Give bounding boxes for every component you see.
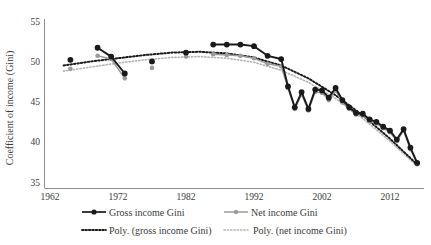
gross-income-data-point [278,56,284,62]
x-tick-label: 1972 [109,192,128,202]
gross-income-data-point [340,97,346,103]
gross-income-line-segment [213,45,417,163]
gross-income-data-point [346,104,352,110]
gross-income-data-point [367,117,373,123]
net-income-data-point [265,62,270,67]
net-income-data-point [238,54,243,59]
gross-income-data-point [122,71,128,77]
gross-income-data-point [285,84,291,90]
gross-income-data-point [326,95,332,101]
chart-canvas: Coefficient of income (Gini) 55 50 45 40… [0,0,431,245]
y-axis-tick-labels: 55 50 45 40 35 [31,17,41,188]
gross-income-data-point [401,126,407,132]
gross-income-data-point [251,43,257,49]
gross-income-data-point [374,119,380,125]
gross-income-data-point [394,137,400,143]
net-income-data-point [150,66,155,71]
chart-legend: Gross income Gini Net income Gini Poly. … [82,207,347,237]
y-tick-label: 40 [31,137,41,147]
y-axis-title: Coefficient of income (Gini) [4,51,16,166]
gross-income-data-point [265,53,271,59]
gross-income-data-point [299,89,305,95]
gross-income-data-point [149,59,155,65]
legend-label: Poly. (net income Gini) [253,225,347,237]
net-income-data-point [95,54,100,59]
legend-item-poly-gross-income-gini: Poly. (gross income Gini) [82,225,212,237]
legend-label: Net income Gini [251,207,318,218]
gross-income-data-point [224,42,230,48]
gross-income-data-point [408,145,414,151]
x-tick-label: 2002 [313,192,332,202]
legend-item-gross-income-gini: Gross income Gini [82,207,185,218]
legend-marker-icon [234,210,238,214]
gross-income-data-point [360,111,366,117]
gross-income-data-point [414,160,420,166]
gross-income-data-point [380,124,386,130]
gross-income-data-point [387,128,393,134]
x-tick-label: 1982 [177,192,196,202]
legend-item-poly-net-income-gini: Poly. (net income Gini) [224,225,347,237]
gross-income-data-point [333,85,339,91]
net-income-data-point [225,53,230,58]
x-tick-label: 1992 [245,192,264,202]
net-income-data-point [252,56,257,61]
gross-income-poly-path [64,52,418,165]
gini-coefficient-line-chart: Coefficient of income (Gini) 55 50 45 40… [0,0,431,245]
gross-income-data-point [108,54,114,60]
legend-item-net-income-gini: Net income Gini [224,207,318,218]
gross-income-data-point [183,50,189,56]
x-tick-label: 1962 [41,192,60,202]
gross-income-data-point [68,57,74,63]
gross-income-data-point [292,104,298,110]
gross-income-data-point [312,87,318,93]
gross-income-data-point [95,45,101,51]
net-income-data-point [123,76,128,81]
gross-income-data-point [306,106,312,112]
net-income-line-segment [213,54,417,163]
gross-income-data-point [210,42,216,48]
legend-marker-icon [91,209,96,214]
gross-income-data-point [353,110,359,116]
legend-label: Gross income Gini [109,207,185,218]
y-tick-label: 35 [31,178,41,188]
x-axis-tick-labels: 1962 1972 1982 1992 2002 2012 [41,192,400,202]
gross-income-data-point [319,88,325,94]
net-income-data-point [68,66,73,71]
gross-income-trendline [64,52,418,165]
y-tick-label: 45 [31,97,41,107]
gross-income-data-point [238,42,244,48]
x-tick-label: 2012 [381,192,400,202]
net-income-data-point [211,52,216,57]
y-tick-label: 55 [31,17,41,27]
legend-label: Poly. (gross income Gini) [109,225,212,237]
y-tick-label: 50 [31,57,41,67]
